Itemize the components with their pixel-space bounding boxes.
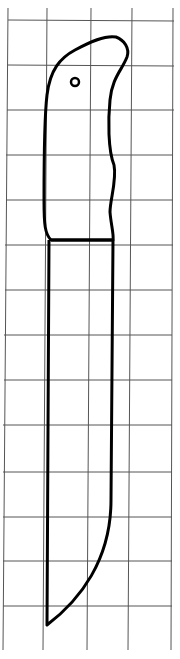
grid — [3, 8, 174, 650]
handle — [44, 37, 128, 240]
blade — [47, 240, 113, 625]
knife-diagram — [0, 0, 180, 659]
knife-outline — [44, 37, 128, 625]
rivet-hole — [71, 78, 79, 86]
